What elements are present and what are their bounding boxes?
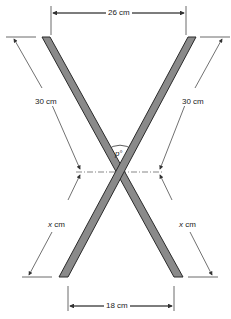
lower-right-length-label: x cm xyxy=(177,220,198,229)
leg-bar-right xyxy=(59,37,196,277)
top-width-label: 26 cm xyxy=(106,8,132,17)
variable-x: x xyxy=(179,220,183,229)
cross-legs-diagram xyxy=(0,0,231,319)
unit: cm xyxy=(185,220,196,229)
bottom-width-label: 18 cm xyxy=(104,301,130,310)
upper-right-length-label: 30 cm xyxy=(180,97,206,106)
unit: cm xyxy=(54,220,65,229)
variable-x: x xyxy=(48,220,52,229)
angle-label: p° xyxy=(113,149,125,158)
upper-left-length-label: 30 cm xyxy=(33,97,59,106)
degree-symbol: ° xyxy=(119,149,122,158)
lower-left-length-label: x cm xyxy=(46,220,67,229)
